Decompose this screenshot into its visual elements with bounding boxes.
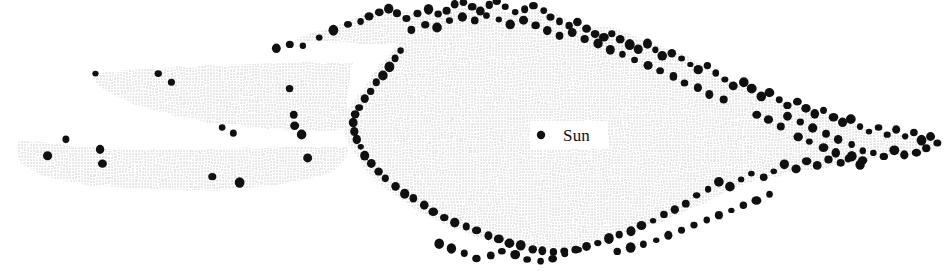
star-dot [808,123,817,132]
sun-dot-icon [537,131,545,139]
star-dot [656,67,664,74]
star-dot [561,251,568,257]
star-dot [286,41,294,48]
star-dot [496,17,502,23]
star-dot [870,150,877,156]
star-dot [420,201,429,210]
star-dot [378,71,388,81]
star-dot [860,147,866,154]
star-dot [155,70,162,77]
star-dot [440,214,448,221]
star-dot [575,247,582,253]
star-dot [219,124,226,130]
star-dot [704,217,710,224]
star-dot [819,143,829,152]
star-dot [822,130,830,138]
star-dot [705,186,711,193]
star-dot [912,149,921,157]
star-dot [502,3,509,9]
star-dot [681,80,689,87]
star-dot [616,231,623,239]
star-dot [472,255,480,263]
star-dot [829,113,839,121]
star-dot [329,25,339,36]
star-dot [643,39,652,49]
star-dot [367,159,376,168]
star-dot [447,243,456,253]
star-dot [619,51,625,58]
star-dot [604,233,614,244]
star-dot [351,110,360,118]
star-dot [765,88,775,97]
star-dot [391,182,400,191]
star-dot [653,238,659,243]
star-dot [272,44,281,53]
star-dot [400,189,409,199]
star-dot [810,109,819,119]
star-dot [820,107,827,114]
star-dot [392,54,399,62]
star-dot [783,102,791,109]
star-dot [776,96,783,103]
star-dot [678,56,685,62]
star-dot [357,18,364,25]
star-dot [235,177,245,187]
star-dot [344,21,352,28]
star-dot [760,174,768,182]
star-dot [637,221,647,230]
star-dot [678,227,685,234]
star-dot [693,192,700,198]
star-dot [721,76,728,82]
star-dot [62,136,69,144]
star-dot [428,207,438,216]
star-dot [793,98,802,106]
star-dot [434,238,444,248]
star-dot [540,7,547,14]
star-dot [355,104,363,111]
star-dot [364,12,373,20]
star-dot [446,17,453,24]
star-dot [421,21,429,29]
star-dot [933,139,941,146]
star-dot [458,12,467,21]
star-dot [591,30,600,38]
star-dot [780,159,789,169]
star-dot [96,145,104,154]
star-dot [880,153,888,160]
star-dot [573,18,582,27]
star-dot [650,218,656,223]
star-dot [510,250,520,259]
cavity-arm-upper-left [94,62,353,131]
star-dot [424,4,433,15]
star-dot [693,65,702,74]
star-dot [892,125,900,134]
star-dot [556,32,564,40]
star-dot [838,118,847,128]
star-dot [694,83,702,92]
star-dot [613,248,621,255]
star-dot [824,156,832,164]
star-dot [671,205,679,214]
star-dot [528,245,537,253]
star-dot [729,81,738,90]
star-dot [793,133,802,142]
star-dot [664,231,672,240]
star-dot [652,46,658,53]
star-dot [353,135,361,145]
star-dot [472,226,481,234]
star-dot [900,150,908,159]
star-dot [550,248,557,256]
star-dot [393,9,401,17]
star-dot [748,171,755,177]
star-dot [374,168,383,176]
figure-canvas [0,0,945,271]
star-dot [402,15,410,22]
star-dot [208,173,216,180]
star-dot [493,0,501,5]
star-dot [512,9,519,15]
star-dot [413,10,421,18]
sun-label: Sun [560,126,593,147]
star-dot [529,2,538,9]
star-dot [813,161,822,170]
star-dot [634,44,643,54]
